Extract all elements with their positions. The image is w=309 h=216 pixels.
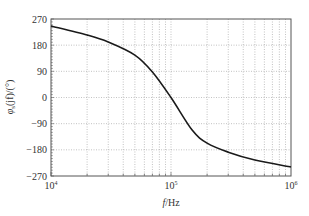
phase-chart: 270180900−90−180−270 104105106 f/Hz φs(j… [0, 0, 309, 216]
x-tick-label: 105 [165, 180, 178, 191]
y-tick-label: 90 [37, 66, 47, 77]
y-tick-label: 0 [42, 92, 47, 103]
x-tick-label: 106 [285, 180, 298, 191]
x-axis-ticks: 104105106 [45, 172, 298, 191]
y-axis-ticks: 270180900−90−180−270 [26, 14, 54, 182]
y-tick-label: 270 [32, 14, 47, 25]
y-tick-label: −90 [31, 118, 47, 129]
x-axis-label: f/Hz [162, 197, 180, 208]
x-tick-label: 104 [45, 180, 58, 191]
y-axis-label: φs(jf)/(°) [4, 80, 17, 115]
y-tick-label: −180 [26, 144, 47, 155]
y-tick-label: 180 [32, 40, 47, 51]
